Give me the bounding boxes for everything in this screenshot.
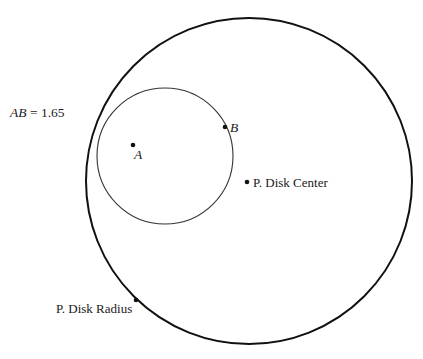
measurement-var: AB	[9, 105, 27, 120]
point-disk-center[interactable]	[245, 180, 250, 185]
disk-radius-label: P. Disk Radius	[56, 301, 132, 316]
measurement-label: AB = 1.65	[9, 105, 65, 120]
measurement-value: 1.65	[41, 105, 65, 120]
point-b[interactable]	[223, 125, 228, 130]
circle-a-through-b[interactable]	[97, 88, 233, 224]
point-a-label: A	[133, 147, 143, 162]
point-b-label: B	[230, 120, 238, 135]
measurement-equals: =	[27, 105, 41, 120]
disk-center-label: P. Disk Center	[253, 175, 328, 190]
point-disk-radius[interactable]	[134, 298, 139, 303]
geometry-canvas: AB = 1.65 A B P. Disk Center P. Disk Rad…	[0, 0, 423, 359]
